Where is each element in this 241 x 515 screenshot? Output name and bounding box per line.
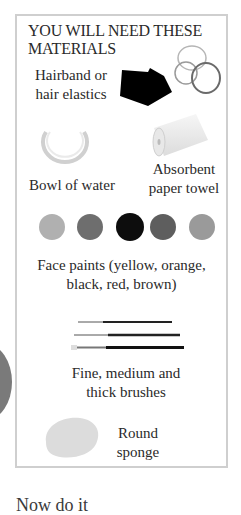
brushes-label: Fine, medium and thick brushes <box>56 364 196 402</box>
hairband-icon <box>114 66 174 110</box>
label-line: black, red, brown) <box>20 275 223 294</box>
hairband-label: Hairband or hair elastics <box>30 66 112 104</box>
label-line: paper towel <box>146 179 222 198</box>
label-line: Absorbent <box>146 160 222 179</box>
paint-brown <box>189 214 215 240</box>
label-line: Fine, medium and <box>56 364 196 383</box>
paint-black <box>116 213 144 241</box>
label-line: Hairband or <box>30 66 112 85</box>
bowl-icon <box>36 118 96 166</box>
face-paints-label: Face paints (yellow, orange, black, red,… <box>20 256 223 294</box>
paper-towel-label: Absorbent paper towel <box>146 160 222 198</box>
label-line: sponge <box>110 443 166 462</box>
label-line: Round <box>110 424 166 443</box>
brushes-icon <box>68 318 188 354</box>
footer-heading: Now do it <box>16 495 88 515</box>
hair-elastics-icon <box>172 40 224 100</box>
sponge-icon <box>40 412 104 462</box>
label-line: hair elastics <box>30 85 112 104</box>
bowl-label: Bowl of water <box>22 176 122 195</box>
sponge-label: Round sponge <box>110 424 166 462</box>
paint-yellow <box>39 214 65 240</box>
title-line-1: YOU WILL NEED THESE <box>28 22 202 40</box>
decorative-circle <box>0 344 12 420</box>
paint-orange <box>77 214 103 240</box>
paper-towel-icon <box>148 112 212 158</box>
paint-red <box>150 214 176 240</box>
label-line: Face paints (yellow, orange, <box>20 256 223 275</box>
label-line: thick brushes <box>56 383 196 402</box>
